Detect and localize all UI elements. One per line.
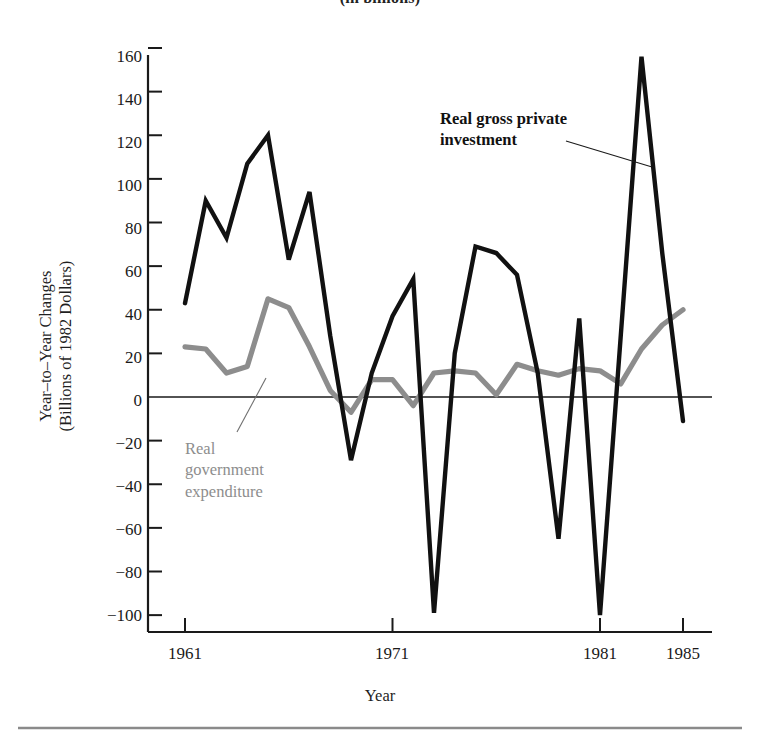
series-line-real-government-expenditure bbox=[185, 299, 683, 412]
x-tick-label: 1961 bbox=[140, 645, 230, 662]
leader-line-government bbox=[237, 378, 266, 432]
annotation-line: Real bbox=[185, 438, 264, 459]
leader-line-investment bbox=[566, 141, 652, 167]
y-tick-label: −40 bbox=[88, 478, 142, 495]
y-axis-title: Year–to–Year Changes (Billions of 1982 D… bbox=[36, 146, 76, 546]
y-tick-label: 120 bbox=[88, 134, 142, 151]
y-tick-label: −60 bbox=[88, 521, 142, 538]
y-axis-title-line2: (Billions of 1982 Dollars) bbox=[56, 146, 76, 546]
annotation-line: Real gross private bbox=[440, 108, 567, 129]
y-axis-tick-labels: 160 140 120 100 80 60 40 20 0 −20 −40 −6… bbox=[86, 0, 142, 746]
annotation-real-government-expenditure: Real government expenditure bbox=[185, 438, 264, 502]
y-tick-label: −20 bbox=[88, 435, 142, 452]
y-tick-label: 0 bbox=[88, 392, 142, 409]
x-tick-label: 1971 bbox=[347, 645, 437, 662]
x-tick-label: 1985 bbox=[638, 645, 728, 662]
x-axis-ticks bbox=[185, 618, 683, 632]
x-axis-title: Year bbox=[0, 686, 760, 706]
x-tick-label: 1981 bbox=[555, 645, 645, 662]
y-tick-label: 80 bbox=[88, 220, 142, 237]
y-tick-label: −100 bbox=[88, 607, 142, 624]
y-tick-label: 20 bbox=[88, 349, 142, 366]
y-axis-ticks bbox=[148, 48, 162, 615]
y-tick-label: −80 bbox=[88, 564, 142, 581]
y-axis-title-line1: Year–to–Year Changes bbox=[36, 146, 56, 546]
chart-figure: (in billions) Year–to–Year Changes (Bill… bbox=[0, 0, 760, 746]
annotation-line: government bbox=[185, 459, 264, 480]
series-line-real-gross-private-investment bbox=[185, 57, 683, 615]
annotation-line: expenditure bbox=[185, 481, 264, 502]
y-tick-label: 160 bbox=[88, 48, 142, 65]
y-tick-label: 100 bbox=[88, 177, 142, 194]
y-tick-label: 140 bbox=[88, 91, 142, 108]
y-tick-label: 40 bbox=[88, 306, 142, 323]
y-tick-label: 60 bbox=[88, 263, 142, 280]
annotation-real-gross-private-investment: Real gross private investment bbox=[440, 108, 567, 151]
annotation-line: investment bbox=[440, 129, 567, 150]
